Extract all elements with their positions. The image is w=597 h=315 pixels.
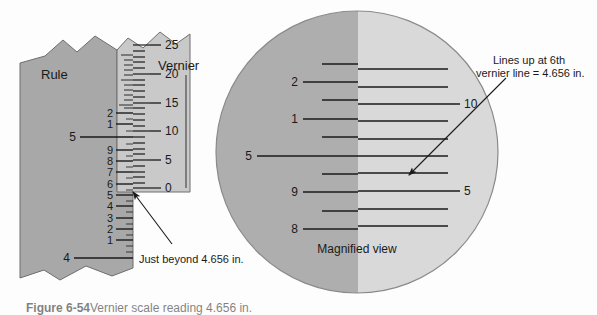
vernier-tick-label: 10 — [165, 124, 179, 138]
rule-tick-label: 1 — [107, 234, 113, 246]
figure-caption: Figure 6-54 Vernier scale reading 4.656 … — [26, 301, 252, 315]
rule-inch-label: 4 — [63, 251, 70, 265]
magnified-view-label: Magnified view — [317, 242, 397, 256]
vernier-plate — [117, 32, 190, 192]
annotation-lines-up-line1: Lines up at 6th — [493, 54, 565, 66]
annotation-arrow — [133, 192, 172, 244]
rule-tick-label: 4 — [107, 200, 113, 212]
magnified-rule-number: 8 — [291, 222, 298, 236]
rule-inch-label: 5 — [69, 130, 76, 144]
rule-tick-label: 1 — [107, 118, 113, 130]
caption-text: Vernier scale reading 4.656 in. — [90, 301, 252, 315]
rule-tick-label: 7 — [107, 166, 113, 178]
magnified-rule-number: 5 — [245, 149, 252, 163]
vernier-tick-0: 0 — [165, 181, 172, 195]
vernier-tick-label: 5 — [165, 153, 172, 167]
rule-body — [20, 36, 133, 280]
vernier-label: Vernier — [158, 58, 200, 73]
vernier-tick-label: 0 — [165, 181, 172, 195]
annotation-lines-up-line2: vernier line = 4.656 in. — [476, 67, 585, 79]
magnified-rule-number: 1 — [291, 112, 298, 126]
magnified-vernier-number: 5 — [464, 184, 471, 198]
vernier-tick-label: 15 — [165, 96, 179, 110]
magnified-rule-number: 2 — [291, 75, 298, 89]
magnified-rule-number: 9 — [291, 185, 298, 199]
caption-label: Figure 6-54 — [26, 301, 90, 315]
rule-label: Rule — [41, 67, 68, 82]
magnified-view: 2 1 5 9 8 10 5 Magnified view — [216, 11, 499, 293]
vernier-tick-label: 25 — [165, 38, 179, 52]
annotation-just-beyond-text: Just beyond 4.656 in. — [139, 253, 244, 265]
figure-vernier-scale: 2 1 5 9 8 7 6 — [0, 0, 597, 315]
